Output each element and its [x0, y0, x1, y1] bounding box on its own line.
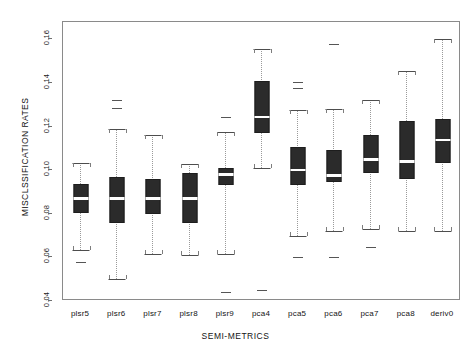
box-iqr	[363, 135, 378, 173]
outlier-marker	[221, 292, 231, 293]
outlier-marker	[221, 117, 231, 118]
whisker-cap-end	[109, 129, 110, 133]
whisker-cap-lower	[217, 254, 234, 255]
whisker-cap-end	[451, 227, 452, 231]
outlier-marker	[293, 82, 303, 83]
y-tick-label: 0.12	[42, 117, 51, 132]
whisker-cap-end	[234, 250, 235, 254]
whisker-cap-end	[415, 71, 416, 75]
median-line	[110, 197, 125, 199]
outlier-marker	[112, 100, 122, 101]
whisker-cap-end	[126, 275, 127, 279]
x-axis-title: SEMI-METRICS	[0, 331, 471, 341]
whisker-cap-lower	[398, 231, 415, 232]
median-line	[327, 174, 342, 176]
whisker-cap-end	[162, 250, 163, 254]
whisker-cap-end	[271, 49, 272, 53]
x-tick-label-pca8: pca8	[397, 309, 415, 318]
whisker-cap-end	[254, 164, 255, 168]
box-iqr	[255, 81, 270, 133]
x-tick-label-pca4: pca4	[252, 309, 270, 318]
whisker-cap-lower	[326, 231, 343, 232]
whisker-cap-end	[434, 227, 435, 231]
box-iqr	[291, 147, 306, 185]
whisker-cap-end	[109, 275, 110, 279]
whisker-cap-end	[343, 227, 344, 231]
box-iqr	[218, 168, 233, 185]
whisker-cap-end	[290, 110, 291, 114]
whisker-cap-end	[362, 100, 363, 104]
outlier-marker	[293, 257, 303, 258]
y-axis: MISCLSSIFICATION RATES 0.040.060.080.100…	[0, 0, 62, 352]
whisker-cap-upper	[290, 110, 307, 111]
outlier-marker	[366, 247, 376, 248]
y-tick-label: 0.04	[42, 292, 51, 307]
whisker-cap-upper	[434, 39, 451, 40]
median-line	[218, 173, 233, 175]
x-tick-label-plsr6: plsr6	[107, 309, 125, 318]
whisker-cap-end	[145, 250, 146, 254]
whisker-cap-end	[162, 135, 163, 139]
outlier-marker	[76, 262, 86, 263]
y-tick-label: 0.16	[42, 30, 51, 45]
whisker-cap-end	[217, 132, 218, 136]
whisker-cap-end	[198, 251, 199, 255]
x-tick-label-pca7: pca7	[360, 309, 378, 318]
whisker-cap-upper	[181, 164, 198, 165]
whisker-cap-end	[90, 163, 91, 167]
x-tick-label-pca6: pca6	[324, 309, 342, 318]
plot-frame	[62, 21, 460, 300]
x-tick-label-plsr9: plsr9	[216, 309, 234, 318]
outlier-marker	[293, 88, 303, 89]
median-line	[435, 139, 450, 141]
whisker-cap-end	[415, 227, 416, 231]
whisker-cap-upper	[145, 135, 162, 136]
median-line	[255, 116, 270, 118]
box-iqr	[327, 150, 342, 183]
whisker-cap-upper	[326, 109, 343, 110]
x-tick-label-pca5: pca5	[288, 309, 306, 318]
y-tick-label: 0.10	[42, 161, 51, 176]
whisker-cap-upper	[109, 129, 126, 130]
x-tick-label-plsr8: plsr8	[179, 309, 197, 318]
whisker-cap-end	[326, 227, 327, 231]
whisker-cap-end	[362, 225, 363, 229]
outlier-marker	[329, 257, 339, 258]
boxplot-figure: MISCLSSIFICATION RATES 0.040.060.080.100…	[0, 0, 471, 352]
y-axis-title: MISCLSSIFICATION RATES	[20, 77, 30, 237]
x-tick-label-plsr5: plsr5	[71, 309, 89, 318]
whisker-cap-end	[379, 100, 380, 104]
whisker-cap-end	[379, 225, 380, 229]
whisker-cap-upper	[254, 49, 271, 50]
whisker-cap-end	[126, 129, 127, 133]
whisker-cap-end	[451, 39, 452, 43]
whisker-cap-end	[326, 109, 327, 113]
x-tick-label-deriv0: deriv0	[430, 309, 453, 318]
whisker-cap-upper	[362, 100, 379, 101]
whisker-cap-end	[181, 164, 182, 168]
box-iqr	[399, 121, 414, 179]
whisker-cap-end	[398, 227, 399, 231]
whisker-cap-lower	[290, 236, 307, 237]
whisker-cap-end	[73, 163, 74, 167]
whisker-cap-end	[290, 232, 291, 236]
y-tick-label: 0.08	[42, 205, 51, 220]
x-tick-label-plsr7: plsr7	[143, 309, 161, 318]
whisker-cap-lower	[181, 255, 198, 256]
plot-area	[63, 22, 459, 299]
median-line	[74, 197, 89, 199]
whisker-cap-end	[434, 39, 435, 43]
median-line	[182, 197, 197, 199]
outlier-marker	[329, 44, 339, 45]
y-tick-label: 0.14	[42, 74, 51, 89]
whisker-cap-end	[234, 132, 235, 136]
median-line	[363, 158, 378, 160]
outlier-marker	[257, 290, 267, 291]
whisker-cap-end	[181, 251, 182, 255]
whisker-cap-lower	[362, 229, 379, 230]
whisker-cap-end	[217, 250, 218, 254]
median-line	[399, 160, 414, 162]
whisker-cap-lower	[145, 254, 162, 255]
whisker-cap-end	[145, 135, 146, 139]
whisker-cap-end	[307, 232, 308, 236]
